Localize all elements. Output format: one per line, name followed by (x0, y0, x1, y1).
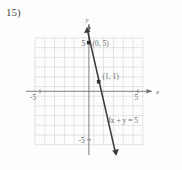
tick-label-y-positive: 5 (82, 39, 86, 48)
y-axis-label: y (85, 16, 90, 24)
line-arrow-bottom (112, 149, 119, 156)
point-label-1-1: (1, 1) (103, 72, 120, 81)
tick-label-x-negative: -5 (30, 93, 36, 102)
tick-label-y-negative: -5 (79, 136, 85, 145)
coordinate-graph-figure: x y -5 5 5 -5 (0, 5) (1, 1) (0, 0, 182, 170)
x-axis-arrow-right (147, 89, 153, 93)
point-marker-0-5 (87, 41, 91, 45)
equation-label: 4x + y = 5 (107, 116, 138, 125)
tick-label-x-positive: 5 (135, 93, 139, 102)
point-label-0-5: (0, 5) (93, 39, 110, 48)
graph-svg: x y -5 5 5 -5 (0, 5) (1, 1) (0, 0, 182, 170)
point-marker-1-1 (97, 80, 101, 84)
x-axis-label: x (155, 88, 160, 96)
axis-arrowheads (87, 24, 152, 94)
worksheet-page: 15) (0, 0, 182, 170)
